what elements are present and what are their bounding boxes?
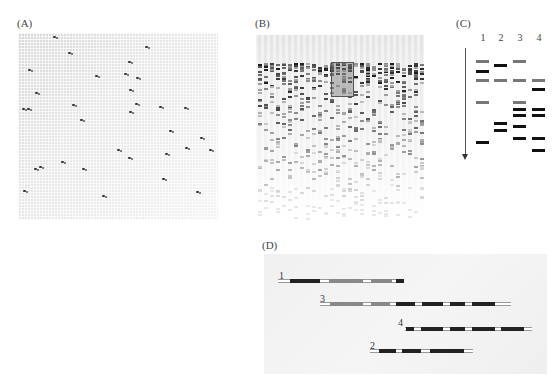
gel-band [396, 173, 400, 175]
gel-band [342, 215, 346, 217]
gel-band [366, 79, 370, 81]
gel-band [366, 74, 370, 76]
gel-band [300, 162, 304, 164]
gel-band [384, 154, 388, 156]
gel-band [402, 139, 406, 141]
gel-band [384, 210, 388, 212]
hybridization-spot [124, 73, 127, 75]
gel-band [342, 135, 346, 137]
gel-band [402, 173, 406, 175]
gel-band [258, 83, 262, 85]
gel-band [270, 67, 274, 69]
gel-band [396, 135, 400, 137]
gel-band [270, 201, 274, 203]
gel-band [282, 123, 286, 125]
gel-band [324, 157, 328, 159]
clone-segment [421, 327, 443, 331]
gel-band [312, 97, 316, 99]
gel-band [276, 138, 280, 140]
gel-band [402, 105, 406, 107]
gel-band [390, 111, 394, 113]
gel-band [384, 74, 388, 76]
gel-band [264, 123, 268, 125]
hybridization-spot [200, 137, 203, 139]
gel-band [390, 104, 394, 106]
gel-band [354, 76, 358, 78]
clone-segment [472, 327, 495, 331]
gel-band [402, 113, 406, 115]
gel-band [420, 124, 424, 126]
gel-band [264, 160, 268, 162]
gel-band [354, 196, 358, 198]
gel-band [312, 171, 316, 173]
gel-band [336, 136, 340, 138]
gel-band [408, 65, 412, 67]
gel-band [318, 105, 322, 107]
gel-band [318, 151, 322, 153]
gel-band [288, 209, 292, 211]
gel-band [360, 67, 364, 69]
gel-band [264, 88, 268, 90]
hybridization-spot [53, 36, 56, 38]
gel-band [282, 116, 286, 118]
gel-band [258, 74, 262, 76]
gel-band [312, 88, 316, 90]
gel-band [312, 178, 316, 180]
gel-band [288, 169, 292, 171]
gel-band [270, 162, 274, 164]
gel-band [402, 72, 406, 74]
gel-band [270, 69, 274, 71]
gel-band [288, 91, 292, 93]
gel-band [264, 207, 268, 209]
lane-number: 1 [476, 32, 490, 43]
gel-band [378, 133, 382, 135]
gel-band [378, 202, 382, 204]
gel-band [330, 188, 334, 190]
gel-band [306, 213, 310, 215]
gel-band [306, 155, 310, 157]
gel-band [396, 81, 400, 83]
gel-band [276, 122, 280, 124]
gel-band [372, 130, 376, 132]
gel-band [318, 119, 322, 121]
clone-segment [450, 327, 465, 331]
gel-band [342, 208, 346, 210]
hybridization-spot [95, 75, 98, 77]
gel-band [324, 168, 328, 170]
gel-band [402, 75, 406, 77]
panel-b-label: (B) [255, 17, 270, 29]
hybridization-spot [102, 195, 105, 197]
gel-band [476, 79, 489, 82]
gel-band [372, 73, 376, 75]
gel-band [372, 165, 376, 167]
gel-band [420, 197, 424, 199]
gel-band [513, 60, 526, 63]
gel-band [324, 110, 328, 112]
gel-band [372, 169, 376, 171]
gel-band [282, 64, 286, 66]
gel-band [360, 195, 364, 197]
gel-band [384, 202, 388, 204]
gel-band [414, 115, 418, 117]
gel-band [258, 214, 262, 216]
gel-band [318, 207, 322, 209]
clone-segment [379, 349, 396, 353]
gel-band [282, 98, 286, 100]
gel-band [324, 98, 328, 100]
gel-band [494, 129, 507, 132]
gel-band [378, 199, 382, 201]
gel-band [384, 81, 388, 83]
gel-band [318, 132, 322, 134]
gel-band [384, 126, 388, 128]
gel-band [396, 214, 400, 216]
gel-band [282, 76, 286, 78]
panel-a-array-grid [18, 33, 218, 220]
gel-band [360, 174, 364, 176]
gel-band [276, 73, 280, 75]
gel-band [366, 178, 370, 180]
gel-band [414, 131, 418, 133]
gel-band [336, 184, 340, 186]
gel-band [384, 133, 388, 135]
gel-band [276, 64, 280, 66]
gel-band [288, 80, 292, 82]
